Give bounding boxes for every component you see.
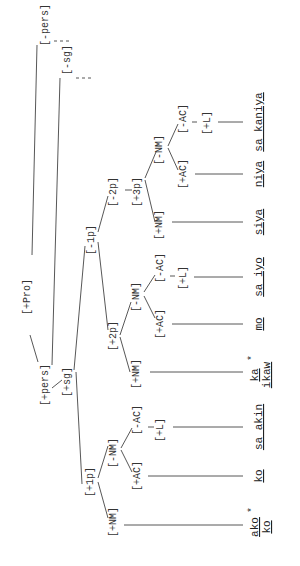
node-p1-plus-ac: [+AC] [132, 461, 143, 491]
node-p3-plus-ac: [+AC] [178, 159, 189, 189]
node-plus-pro: [+Pro] [22, 279, 33, 315]
leaf-ako-ko: ko [261, 520, 273, 533]
node-p1-minus-nm: [-NM] [108, 438, 119, 468]
node-plus-pers: [+pers] [40, 364, 51, 406]
leaf-ako: ako [249, 517, 261, 537]
leaf-ka-star: * [247, 355, 258, 361]
leaf-sa-akin: sa akin [253, 404, 265, 450]
feature-tree-diagram: [+Pro] [-pers] [+pers] [-sg] [+sg] [-1p]… [0, 0, 300, 566]
node-p3-plus-nm: [+NM] [154, 210, 165, 240]
leaf-ka: ka [249, 368, 261, 382]
node-plus-2p: [+2p] [108, 321, 119, 351]
node-p1-minus-ac: [-AC] [132, 405, 143, 435]
node-p2-minus-nm: [-NM] [131, 282, 142, 312]
node-p3-minus-nm: [-NM] [154, 135, 165, 165]
node-p3-minus-ac: [-AC] [178, 104, 189, 134]
node-p2-plus-nm: [+NM] [131, 359, 142, 389]
node-p1-plus-nm: [+NM] [108, 507, 119, 537]
node-minus-sg: [-sg] [62, 45, 73, 75]
node-plus-1p: [+1p] [85, 467, 96, 497]
node-minus-1p: [-1p] [86, 225, 97, 255]
leaf-siya: siya [253, 208, 265, 235]
leaf-sa-iyo: sa iyo [253, 257, 265, 297]
node-p1-plus-l: [+L] [155, 418, 166, 442]
node-minus-pers: [-pers] [40, 4, 51, 46]
leaf-ko: ko [253, 469, 265, 482]
node-p3-plus-l: [+L] [202, 111, 213, 135]
leaf-sa-kaniya: sa kaniya [253, 92, 265, 152]
node-p2-plus-ac: [+AC] [155, 309, 166, 339]
node-plus-sg: [+sg] [62, 367, 73, 397]
leaf-niya: niya [253, 160, 265, 187]
node-minus-2p: [-2p] [108, 177, 119, 207]
leaf-ako-star: * [247, 507, 258, 513]
leaf-mo: mo [253, 317, 265, 330]
node-p2-plus-l: [+L] [178, 266, 189, 290]
node-plus-3p: [+3p] [132, 177, 143, 207]
node-p2-minus-ac: [-AC] [155, 253, 166, 283]
leaf-ikaw: ikaw [261, 361, 273, 388]
